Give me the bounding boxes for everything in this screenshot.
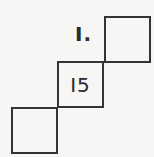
- answer-box-top-right[interactable]: [104, 16, 151, 63]
- given-box-middle: I5: [57, 61, 104, 108]
- answer-box-bottom-left[interactable]: [11, 107, 58, 154]
- cell-value: I5: [59, 75, 102, 95]
- problem-number: I.: [75, 24, 92, 44]
